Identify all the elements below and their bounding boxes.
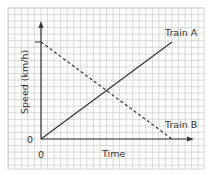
- x-axis-label: Time: [101, 148, 125, 159]
- x-origin-label: 0: [38, 149, 44, 160]
- train-a-label: Train A: [164, 27, 198, 38]
- train-b-label: Train B: [164, 119, 197, 130]
- speed-time-chart: Train A Train B Time 0 0 Speed (km/h): [0, 0, 211, 175]
- y-axis-label: Speed (km/h): [19, 50, 30, 114]
- y-axis-arrow-icon: [39, 21, 44, 28]
- y-origin-label: 0: [27, 134, 33, 145]
- x-axis-arrow-icon: [187, 137, 194, 142]
